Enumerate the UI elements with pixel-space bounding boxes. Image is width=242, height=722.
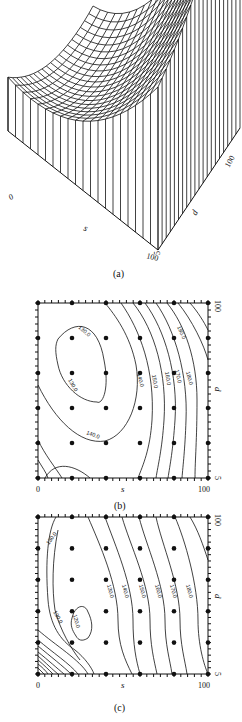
mesh-line-d — [89, 0, 236, 22]
a-s-axis-label: s — [82, 223, 90, 234]
design-point — [70, 546, 75, 551]
design-point — [36, 371, 41, 376]
contour-label-130c: 130.0 — [106, 584, 115, 599]
design-point — [138, 515, 143, 520]
axis-ticks-b — [35, 300, 211, 481]
design-point — [104, 476, 109, 481]
contour-plot-b: 130.0 130.0 140.0 140.0 150.0 160.0 170.… — [35, 300, 223, 494]
a-d-tick-100: 100 — [223, 154, 237, 169]
design-point — [172, 672, 177, 677]
design-point — [36, 578, 41, 583]
design-point — [206, 371, 211, 376]
design-point — [70, 301, 75, 306]
contour-lines-c — [38, 517, 208, 674]
a-d-tick-5: 5 — [153, 251, 162, 255]
b-d-tick-100: 100 — [213, 300, 222, 312]
design-point — [70, 515, 75, 520]
design-point — [138, 301, 143, 306]
contour-label-140b: 140.0 — [86, 429, 101, 439]
contour-label-130b: 130.0 — [52, 610, 64, 625]
design-point — [138, 578, 143, 583]
design-point — [104, 578, 109, 583]
design-point — [36, 406, 41, 411]
mesh-line-s — [23, 12, 108, 92]
design-point — [138, 406, 143, 411]
design-point — [104, 406, 109, 411]
design-point — [70, 371, 75, 376]
c-s-tick-100: 100 — [198, 681, 210, 690]
contour-label-130b: 130.0 — [67, 378, 79, 393]
contour-190 — [190, 517, 208, 560]
contour-label-130a: 130.0 — [77, 324, 91, 337]
contour-label-150: 150.0 — [138, 584, 147, 599]
contour-label-150: 150.0 — [151, 374, 159, 389]
contour-label-140: 140.0 — [121, 584, 130, 599]
b-d-axis-label: d — [213, 387, 223, 392]
caption-b-label: (b) — [114, 500, 126, 512]
design-point — [70, 406, 75, 411]
design-point — [172, 640, 177, 645]
figure: 0 s 100 5 d 100 (a) — [0, 0, 242, 722]
design-point — [104, 640, 109, 645]
design-point — [138, 609, 143, 614]
contour-label-160: 160.0 — [164, 371, 172, 386]
design-point — [70, 672, 75, 677]
c-s-tick-0: 0 — [36, 681, 40, 690]
design-point — [104, 609, 109, 614]
contour-label-180: 180.0 — [185, 371, 194, 386]
contour-label-180: 180.0 — [185, 584, 194, 599]
caption-a: (a) — [113, 268, 124, 280]
surface-plot-a: 0 s 100 5 d 100 (a) — [8, 0, 240, 280]
contour-130-outer — [47, 517, 94, 674]
design-point — [206, 406, 211, 411]
surface-walls — [8, 0, 240, 250]
design-point — [206, 640, 211, 645]
design-point — [206, 578, 211, 583]
design-point — [172, 476, 177, 481]
design-point — [138, 640, 143, 645]
b-s-axis-label: s — [121, 484, 125, 494]
design-point — [104, 336, 109, 341]
contour-plot-c: 130.0 130.0 120.0 130.0 140.0 150.0 160.… — [35, 514, 223, 690]
contour-130 — [56, 326, 106, 402]
design-point — [206, 546, 211, 551]
c-d-tick-5: 5 — [213, 672, 222, 676]
design-point — [36, 336, 41, 341]
a-d-axis-label: d — [189, 208, 200, 217]
c-d-axis-label: d — [213, 594, 223, 599]
contour-label-120: 120.0 — [72, 614, 81, 629]
contour-corner-6 — [38, 660, 53, 674]
contour-210 — [190, 303, 208, 330]
design-point — [70, 476, 75, 481]
design-point — [138, 546, 143, 551]
design-point — [206, 336, 211, 341]
a-s-tick-0: 0 — [8, 192, 15, 202]
mesh-line-s — [76, 0, 160, 120]
b-d-tick-5: 5 — [213, 476, 222, 480]
b-s-tick-100: 100 — [198, 485, 210, 494]
design-point — [36, 672, 41, 677]
contour-130-inner — [53, 530, 80, 660]
contour-140-low — [38, 440, 62, 478]
b-s-tick-0: 0 — [36, 485, 40, 494]
design-point — [206, 301, 211, 306]
c-s-axis-label: s — [121, 680, 125, 690]
mesh-line-d — [76, 0, 224, 45]
design-point — [36, 546, 41, 551]
design-point — [104, 672, 109, 677]
contour-lowleft-2 — [45, 466, 90, 478]
design-point — [36, 301, 41, 306]
design-point — [36, 476, 41, 481]
design-point — [104, 546, 109, 551]
contour-label-190: 190.0 — [176, 325, 187, 340]
design-point — [172, 301, 177, 306]
design-point — [36, 609, 41, 614]
design-point — [70, 336, 75, 341]
contour-140 — [38, 303, 137, 441]
design-point — [138, 441, 143, 446]
design-point — [172, 609, 177, 614]
design-point — [70, 441, 75, 446]
design-point — [36, 515, 41, 520]
c-d-tick-100: 100 — [213, 514, 222, 526]
design-point — [206, 515, 211, 520]
